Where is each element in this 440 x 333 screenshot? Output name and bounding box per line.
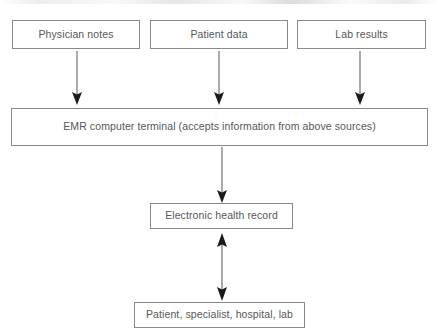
node-patient-data-label: Patient data [190, 29, 247, 41]
node-lab-results-label: Lab results [335, 29, 387, 41]
arrow-patient-data-to-emr-terminal [204, 51, 234, 105]
arrow-emr-terminal-to-electronic-health-record [207, 147, 237, 203]
arrow-physician-notes-to-emr-terminal [62, 51, 92, 105]
node-electronic-health-record-label: Electronic health record [165, 210, 278, 222]
node-recipients[interactable]: Patient, specialist, hospital, lab [134, 302, 305, 328]
scan-edge-artifact [0, 0, 440, 4]
node-emr-terminal-label: EMR computer terminal (accepts informati… [63, 121, 376, 133]
flowchart-diagram: Physician notes Patient data Lab results… [0, 0, 440, 333]
node-lab-results[interactable]: Lab results [297, 20, 426, 49]
node-electronic-health-record[interactable]: Electronic health record [150, 203, 293, 229]
arrow-bidirectional-ehr-to-recipients [207, 233, 237, 301]
node-physician-notes-label: Physician notes [38, 29, 113, 41]
node-recipients-label: Patient, specialist, hospital, lab [146, 309, 293, 321]
node-emr-terminal[interactable]: EMR computer terminal (accepts informati… [11, 108, 428, 146]
arrow-lab-results-to-emr-terminal [345, 51, 375, 105]
node-physician-notes[interactable]: Physician notes [12, 20, 140, 49]
node-patient-data[interactable]: Patient data [150, 20, 288, 49]
